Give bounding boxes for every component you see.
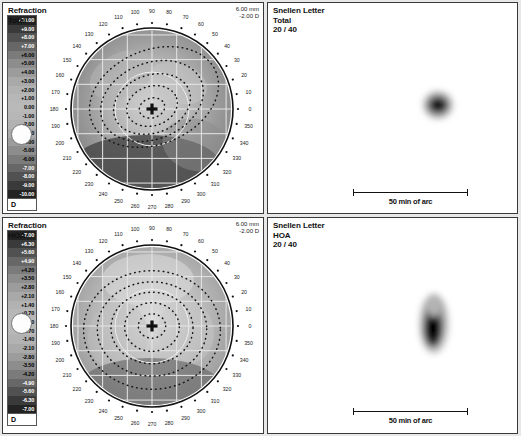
colour-scale-refraction-hoa[interactable]: +7.00+6.30+5.60+4.90+4.20+3.50+2.80+2.10… [7,230,37,426]
psf-blob-svg [376,262,496,392]
degree-tick [180,189,182,191]
scale-marker-knob[interactable] [11,124,32,145]
degree-label: 0 [249,323,252,329]
degree-label: 30 [234,57,240,63]
scale-band: +5.60 [8,248,36,257]
degree-label: 70 [183,231,189,237]
degree-tick [121,244,123,246]
colour-scale-refraction-total[interactable]: +10.00+9.00+8.00+7.00+6.00+5.00+4.00+3.0… [7,15,37,211]
degree-label: 240 [99,408,108,414]
degree-tick [66,123,68,125]
degree-label: 200 [56,140,65,146]
scale-band: -2.10 [8,344,36,353]
panel-title: Refraction [8,221,47,231]
psf-blob-svg [378,43,498,173]
map-shading-lobe [80,358,220,414]
panel-refraction-total[interactable]: Refraction Total 6.00 mm -2.00 D +10.00+… [2,2,264,214]
degree-label: 0 [249,106,252,112]
degree-tick [151,239,153,241]
scale-unit-label: D [8,413,36,425]
scale-marker-knob[interactable] [11,313,32,334]
degree-label: 160 [56,289,65,295]
degree-label: 200 [56,357,65,363]
degree-label: 180 [50,106,59,112]
scale-band: -5.60 [8,387,36,396]
degree-label: 320 [223,169,232,175]
panel-refraction-hoa-header: Refraction HOA [8,221,47,240]
degree-label: 300 [197,408,206,414]
degree-tick [65,108,67,110]
degree-tick [180,244,182,246]
degree-tick [236,93,238,95]
degree-label: 140 [73,43,82,49]
degree-label: 80 [166,9,172,15]
degree-label: 10 [246,306,252,312]
panel-snellen-hoa[interactable]: Snellen Letter HOA 20 / 40 50 min of arc [267,217,518,434]
degree-tick [206,259,208,261]
degree-label: 60 [198,21,204,27]
panel-subtitle: Total [8,16,47,26]
degree-tick [232,295,234,297]
degree-label: 270 [148,421,157,427]
visual-acuity-value: 20 / 40 [273,25,325,35]
degree-label: 160 [56,72,65,78]
map-shading-lobe [102,254,194,306]
scale-band: +6.30 [8,240,36,249]
scale-band: 0.00 [8,103,36,112]
panel-title: Refraction [8,6,47,16]
scale-band: +2.80 [8,283,36,292]
degree-tick [166,23,168,25]
panel-subtitle: HOA [273,231,325,241]
degree-tick [65,325,67,327]
degree-label: 20 [241,72,247,78]
degree-tick [85,380,87,382]
polar-map-refraction-total[interactable]: 0102030405060708090100110120130140150160… [43,6,261,212]
panel-snellen-hoa-header: Snellen Letter HOA 20 / 40 [273,221,325,250]
scale-band: -10.00 [8,190,36,199]
panel-subtitle: HOA [8,231,47,241]
degree-label: 250 [114,198,123,204]
panel-refraction-total-corner: 6.00 mm -2.00 D [236,6,259,20]
polar-map-refraction-hoa[interactable]: 0102030405060708090100110120130140150160… [43,223,261,429]
degree-label: 220 [73,386,82,392]
degree-tick [166,410,168,412]
degree-tick [76,368,78,370]
panel-refraction-hoa[interactable]: Refraction HOA 6.00 mm -2.00 D +7.00+6.3… [2,217,264,434]
degree-tick [96,391,98,393]
pupil-diameter-label: 6.00 mm [236,6,259,13]
degree-label: 310 [211,181,220,187]
psf-blob-total [378,43,498,173]
degree-tick [180,27,182,29]
degree-tick [194,399,196,401]
degree-label: 230 [85,181,94,187]
degree-tick [225,368,227,370]
degree-label: 260 [131,203,140,209]
degree-tick [237,108,239,110]
degree-tick [136,240,138,242]
degree-tick [108,399,110,401]
scale-bar-hoa: 50 min of arc [353,408,468,425]
scale-unit-label: D [8,198,36,210]
degree-label: 70 [183,14,189,20]
degree-label: 30 [234,274,240,280]
degree-tick [206,174,208,176]
panel-snellen-total[interactable]: Snellen Letter Total 20 / 40 50 min of a… [267,2,518,214]
degree-label: 130 [85,248,94,254]
degree-label: 300 [197,191,206,197]
degree-tick [151,411,153,413]
degree-label: 10 [246,89,252,95]
scale-band: +9.00 [8,25,36,34]
degree-label: 190 [51,340,60,346]
degree-label: 180 [50,323,59,329]
degree-label: 120 [99,21,108,27]
panel-title: Snellen Letter [273,6,325,16]
degree-label: 80 [166,226,172,232]
degree-label: 330 [233,372,242,378]
psf-lobe [428,295,440,317]
scale-band: +3.50 [8,274,36,283]
degree-tick [232,137,234,139]
visual-acuity-value: 20 / 40 [273,240,325,250]
scale-bar-line [353,408,468,415]
degree-tick [225,65,227,67]
degree-tick [237,325,239,327]
